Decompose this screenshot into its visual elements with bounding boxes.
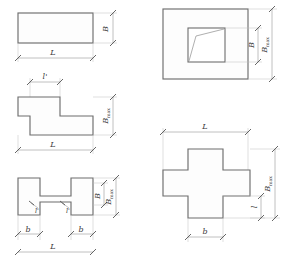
label-total-height-Bmax: Bmax xyxy=(104,189,114,206)
label-web-height-B: B xyxy=(93,193,102,200)
label-outer-height-Bmax: Bmax xyxy=(260,37,270,54)
label-arm-length-l: l xyxy=(250,205,259,208)
label-web-left: l' xyxy=(35,207,39,215)
label-step-width: l' xyxy=(43,72,48,81)
drawing-canvas: B L l' Bmax L xyxy=(0,0,287,265)
label-inner-height-B: B xyxy=(247,42,256,49)
label-width-b: b xyxy=(202,227,207,236)
cross-outline xyxy=(163,149,250,218)
label-flange-right-b: b xyxy=(78,225,83,234)
rectangular-profile: B L xyxy=(15,10,117,62)
label-flange-left-b: b xyxy=(25,225,30,234)
i-beam-profile: l' l' B Bmax b b L xyxy=(15,175,120,255)
rectangle-outline xyxy=(18,13,93,43)
label-length-L: L xyxy=(201,122,207,131)
step-profile: l' Bmax L xyxy=(15,72,117,154)
label-height-B: B xyxy=(101,26,110,33)
cross-profile: L Bmax l b xyxy=(160,122,280,242)
technical-drawing-figure: B L l' Bmax L xyxy=(0,0,287,265)
label-length-L: L xyxy=(49,140,55,149)
label-length-L: L xyxy=(49,48,55,57)
label-height-Bmax: Bmax xyxy=(263,176,273,193)
label-height-Bmax: Bmax xyxy=(101,108,111,125)
step-outline xyxy=(18,97,93,135)
label-length-L: L xyxy=(49,242,55,251)
square-frame-profile: B Bmax xyxy=(163,6,277,82)
ibeam-outline xyxy=(18,178,93,215)
label-web-right: l' xyxy=(66,207,70,215)
